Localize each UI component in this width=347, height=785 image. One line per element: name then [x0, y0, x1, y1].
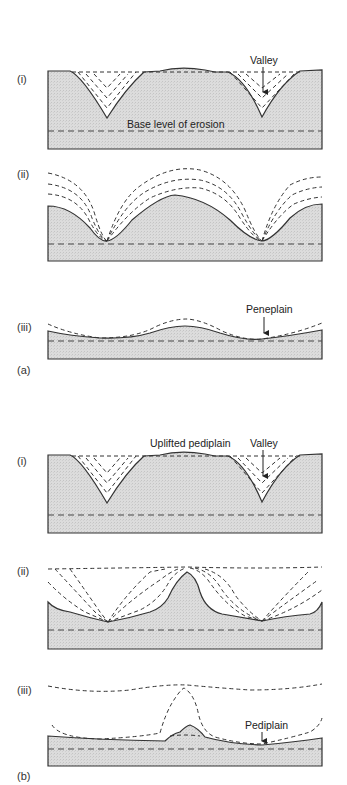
pediplain-label: Pediplain	[245, 719, 288, 731]
stage-label: (ii)	[17, 565, 29, 577]
peneplain-label: Peneplain	[246, 303, 293, 315]
stage-label: (i)	[17, 73, 27, 85]
valley-label: Valley	[250, 437, 279, 449]
part-a-label: (a)	[17, 364, 30, 376]
stage-label: (i)	[17, 455, 27, 467]
stage-label: (iii)	[17, 321, 32, 333]
panel-b-iii: (iii) Pediplain	[17, 684, 322, 766]
panel-b-i: (i) Uplifted pediplain Valley	[17, 437, 322, 533]
stage-label: (ii)	[17, 168, 29, 180]
panel-a-ii: (ii)	[17, 168, 322, 261]
land-surface	[48, 725, 322, 766]
landscape-evolution-diagram: (i) Base level of erosion Valley (ii)	[0, 0, 347, 785]
panel-a-i: (i) Base level of erosion Valley	[17, 54, 322, 149]
former-surfaces	[48, 684, 322, 744]
part-b-label: (b)	[17, 770, 30, 782]
base-level-label: Base level of erosion	[127, 118, 225, 130]
panel-a-iii: (iii) Peneplain	[17, 303, 322, 359]
land-surface	[48, 452, 322, 533]
land-surface	[48, 572, 322, 649]
land-surface	[48, 326, 322, 359]
uplifted-pediplain-label: Uplifted pediplain	[150, 437, 231, 449]
stage-label: (iii)	[17, 684, 32, 696]
land-surface	[48, 195, 322, 261]
panel-b-ii: (ii)	[17, 565, 322, 649]
valley-label: Valley	[250, 54, 279, 66]
